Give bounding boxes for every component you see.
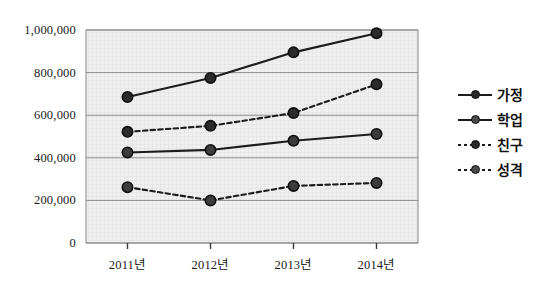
legend-item-0[interactable]: 가정 xyxy=(458,82,544,107)
data-point xyxy=(122,92,132,102)
y-axis-tick-label: 0 xyxy=(0,236,76,251)
y-axis-tick-label: 1,000,000 xyxy=(0,23,76,38)
data-point xyxy=(371,28,381,38)
data-point xyxy=(288,136,298,146)
legend-label: 학업 xyxy=(497,113,523,127)
data-point xyxy=(205,121,215,131)
y-axis-tick-label: 400,000 xyxy=(0,150,76,165)
data-point xyxy=(288,47,298,57)
data-point xyxy=(122,182,132,192)
data-point xyxy=(288,108,298,118)
legend-marker-icon xyxy=(458,88,492,102)
legend-label: 성격 xyxy=(497,163,523,177)
data-point xyxy=(122,147,132,157)
data-point xyxy=(371,178,381,188)
legend-item-3[interactable]: 성격 xyxy=(458,157,544,182)
legend-label: 가정 xyxy=(497,88,523,102)
legend-item-1[interactable]: 학업 xyxy=(458,107,544,132)
x-axis-tick-label: 2012년 xyxy=(192,254,230,273)
x-axis-ticks xyxy=(128,243,377,249)
legend-marker-icon xyxy=(458,163,492,177)
data-point xyxy=(122,127,132,137)
x-axis-tick-label: 2014년 xyxy=(358,254,396,273)
y-axis-tick-label: 600,000 xyxy=(0,108,76,123)
data-point xyxy=(205,145,215,155)
data-point xyxy=(288,181,298,191)
legend-item-2[interactable]: 친구 xyxy=(458,132,544,157)
legend-label: 친구 xyxy=(497,138,523,152)
x-axis-tick-label: 2011년 xyxy=(109,254,147,273)
y-axis-tick-label: 800,000 xyxy=(0,65,76,80)
x-axis-tick-label: 2013년 xyxy=(275,254,313,273)
data-point xyxy=(205,73,215,83)
data-point xyxy=(371,129,381,139)
data-point xyxy=(371,79,381,89)
y-axis-tick-label: 200,000 xyxy=(0,193,76,208)
chart-legend: 가정학업친구성격 xyxy=(458,82,544,182)
legend-marker-icon xyxy=(458,113,492,127)
line-chart: 0200,000400,000600,000800,0001,000,000 2… xyxy=(0,0,548,282)
data-point xyxy=(205,195,215,205)
legend-marker-icon xyxy=(458,138,492,152)
plot-background xyxy=(86,30,418,243)
